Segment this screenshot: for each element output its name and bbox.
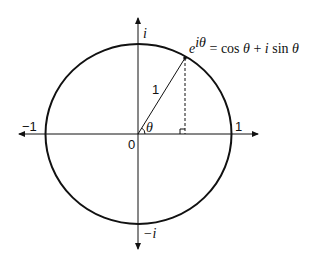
label-origin: 0	[128, 137, 135, 152]
euler-formula: eiθ = cos θ + i sin θ	[189, 35, 299, 56]
label-real-negative: −1	[22, 119, 37, 134]
label-real-positive: 1	[235, 119, 242, 134]
point-on-circle	[183, 56, 187, 60]
formula-exponent: iθ	[195, 35, 206, 50]
formula-plus: +	[250, 41, 265, 56]
label-radius: 1	[152, 82, 159, 97]
label-imag-negative: −i	[143, 226, 156, 241]
label-imag-positive: i	[143, 26, 147, 41]
formula-theta-2: θ	[292, 41, 299, 56]
unit-circle-diagram: i −i −1 1 0 1 θ eiθ = cos θ + i sin θ	[0, 0, 332, 266]
formula-sin: sin	[269, 41, 292, 56]
label-angle-theta: θ	[146, 120, 153, 135]
right-angle-mark	[180, 129, 185, 134]
angle-arc	[142, 128, 145, 134]
formula-equals-cos: = cos	[206, 41, 243, 56]
